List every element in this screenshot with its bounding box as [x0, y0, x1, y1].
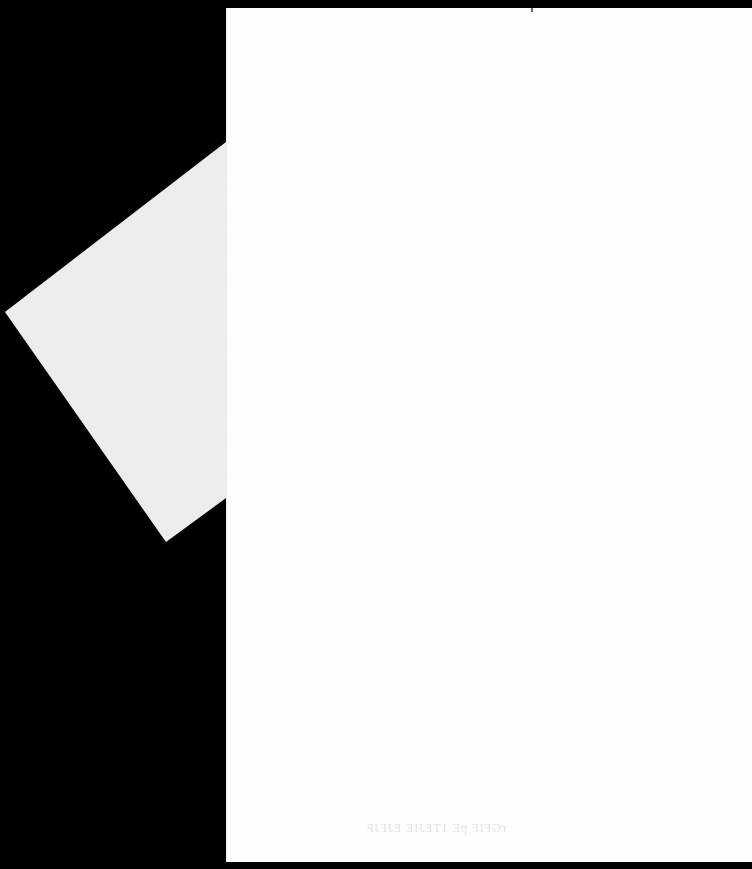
bleed-through-text: rGFIF pE 1TEJIE EJFJP	[366, 821, 506, 836]
scan-speck	[531, 8, 533, 12]
document-page: rGFIF pE 1TEJIE EJFJP	[226, 8, 752, 862]
